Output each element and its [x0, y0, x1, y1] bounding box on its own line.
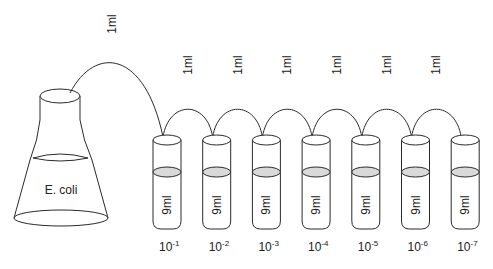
dilution-base: 10 — [408, 240, 422, 254]
serial-dilution-diagram: E. coli 1ml1ml1ml1ml1ml1ml1ml 9ml10-19ml… — [0, 0, 493, 269]
test-tube: 9ml10-1 — [153, 135, 181, 254]
transfer-volume-label: 1ml — [181, 55, 195, 74]
test-tube: 9ml10-3 — [252, 135, 280, 254]
tube-liquid-surface — [402, 167, 430, 177]
tube-volume-label: 9ml — [458, 195, 472, 214]
dilution-label: 10-6 — [408, 239, 429, 254]
tube-volume-label: 9ml — [409, 195, 423, 214]
dilution-base: 10 — [457, 240, 471, 254]
transfer-arc — [362, 109, 412, 137]
dilution-label: 10-7 — [457, 239, 478, 254]
transfer-arc — [163, 109, 213, 137]
transfer-arc — [262, 109, 312, 137]
flask-base-ellipse — [14, 210, 108, 226]
tube-mouth — [451, 135, 479, 145]
transfer-arcs: 1ml1ml1ml1ml1ml1ml1ml — [70, 14, 461, 137]
flask: E. coli — [14, 89, 108, 226]
tube-liquid-surface — [352, 167, 380, 177]
test-tube: 9ml10-7 — [451, 135, 479, 254]
transfer-arc — [312, 109, 362, 137]
test-tube: 9ml10-5 — [352, 135, 380, 254]
transfer-volume-label: 1ml — [330, 55, 344, 74]
tube-liquid-surface — [203, 167, 231, 177]
test-tube: 9ml10-4 — [302, 135, 330, 254]
tube-mouth — [352, 135, 380, 145]
tube-mouth — [302, 135, 330, 145]
tube-mouth — [252, 135, 280, 145]
dilution-base: 10 — [258, 240, 272, 254]
test-tube: 9ml10-6 — [402, 135, 430, 254]
tube-mouth — [402, 135, 430, 145]
dilution-exponent: -1 — [172, 239, 180, 248]
dilution-base: 10 — [358, 240, 372, 254]
tube-volume-label: 9ml — [160, 195, 174, 214]
dilution-label: 10-1 — [159, 239, 180, 254]
tube-liquid-surface — [302, 167, 330, 177]
tube-mouth — [153, 135, 181, 145]
dilution-label: 10-2 — [209, 239, 230, 254]
test-tube: 9ml10-2 — [203, 135, 231, 254]
transfer-volume-label: 1ml — [231, 55, 245, 74]
dilution-label: 10-4 — [308, 239, 329, 254]
tube-liquid-surface — [252, 167, 280, 177]
dilution-exponent: -5 — [371, 239, 379, 248]
dilution-base: 10 — [308, 240, 322, 254]
dilution-exponent: -3 — [272, 239, 280, 248]
transfer-volume-label: 1ml — [429, 55, 443, 74]
dilution-label: 10-5 — [358, 239, 379, 254]
flask-label: E. coli — [45, 183, 78, 197]
dilution-label: 10-3 — [258, 239, 279, 254]
transfer-volume-label: 1ml — [280, 55, 294, 74]
tubes: 9ml10-19ml10-29ml10-39ml10-49ml10-59ml10… — [153, 135, 479, 254]
dilution-exponent: -7 — [471, 239, 479, 248]
tube-mouth — [203, 135, 231, 145]
flask-mouth-ellipse — [40, 89, 80, 103]
tube-volume-label: 9ml — [210, 195, 224, 214]
transfer-arc — [70, 63, 163, 137]
tube-volume-label: 9ml — [359, 195, 373, 214]
dilution-exponent: -6 — [421, 239, 429, 248]
transfer-arc — [412, 109, 462, 137]
tube-liquid-surface — [153, 167, 181, 177]
tube-volume-label: 9ml — [259, 195, 273, 214]
tube-volume-label: 9ml — [309, 195, 323, 214]
dilution-base: 10 — [159, 240, 173, 254]
transfer-arc — [213, 109, 263, 137]
tube-liquid-surface — [451, 167, 479, 177]
transfer-volume-label: 1ml — [380, 55, 394, 74]
dilution-exponent: -2 — [222, 239, 230, 248]
dilution-exponent: -4 — [321, 239, 329, 248]
transfer-volume-label: 1ml — [105, 14, 119, 33]
dilution-base: 10 — [209, 240, 223, 254]
